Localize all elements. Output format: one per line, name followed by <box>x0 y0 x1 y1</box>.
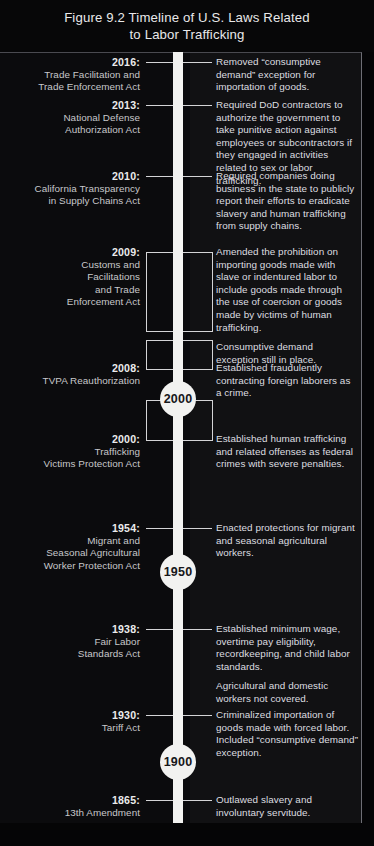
entry-year-2008: 2008: <box>0 362 140 375</box>
connector-left-1938 <box>146 629 174 630</box>
connector-left-2013 <box>146 105 174 106</box>
entry-year-2009: 2009: <box>0 246 140 259</box>
entry-name-2010: California Transparency in Supply Chains… <box>0 183 140 208</box>
entry-desc-2000-0: Established human trafficking and relate… <box>216 433 358 471</box>
entry-year-1865: 1865: <box>0 794 140 807</box>
entry-name-2008: TVPA Reauthorization <box>0 375 140 387</box>
entry-year-1938: 1938: <box>0 623 140 636</box>
entry-desc-2008-0: Established fraudulently contracting for… <box>216 362 358 400</box>
entry-desc-1930-0: Criminalized importation of goods made w… <box>216 709 358 759</box>
decade-marker-1900: 1900 <box>160 744 196 780</box>
entry-name-1930: Tariff Act <box>0 722 140 734</box>
entry-name-1938: Fair Labor Standards Act <box>0 636 140 661</box>
connector-right-2010 <box>182 176 212 177</box>
entry-name-2009: Customs and Facilitations and Trade Enfo… <box>0 259 140 309</box>
entry-name-2016: Trade Facilitation and Trade Enforcement… <box>0 69 140 94</box>
entry-year-2013: 2013: <box>0 99 140 112</box>
entry-year-2000: 2000: <box>0 433 140 446</box>
connector-right-2016 <box>182 62 212 63</box>
entry-desc-1938-0: Established minimum wage, overtime pay e… <box>216 623 358 673</box>
connector-left-2016 <box>146 62 174 63</box>
entry-year-2010: 2010: <box>0 170 140 183</box>
entry-year-1930: 1930: <box>0 709 140 722</box>
entry-year-2016: 2016: <box>0 56 140 69</box>
connector-left-1954 <box>146 528 174 529</box>
connector-right-bracket-2009 <box>182 252 213 332</box>
decade-marker-1950: 1950 <box>160 554 196 590</box>
connector-left-bracket-2008 <box>146 340 175 370</box>
entry-desc-1954-0: Enacted protections for migrant and seas… <box>216 522 358 560</box>
entry-year-1954: 1954: <box>0 522 140 535</box>
timeline-figure: Figure 9.2 Timeline of U.S. Laws Related… <box>0 0 374 846</box>
connector-left-1930 <box>146 715 174 716</box>
entry-desc-2010-0: Required companies doing business in the… <box>216 170 358 233</box>
entry-name-2000: Trafficking Victims Protection Act <box>0 446 140 471</box>
figure-title: Figure 9.2 Timeline of U.S. Laws Related… <box>22 9 352 43</box>
connector-left-1865 <box>146 800 174 801</box>
connector-right-1865 <box>182 800 212 801</box>
figure-title-band: Figure 9.2 Timeline of U.S. Laws Related… <box>0 0 374 52</box>
entry-desc-2016-0: Removed “consumptive demand” exception f… <box>216 56 358 94</box>
connector-right-1938 <box>182 629 212 630</box>
connector-right-1954 <box>182 528 212 529</box>
entry-desc-1865-0: Outlawed slavery and involuntary servitu… <box>216 794 358 819</box>
entry-desc-2009-0: Amended the prohibition on importing goo… <box>216 246 358 334</box>
timeline-spine <box>173 52 183 823</box>
entry-name-1954: Migrant and Seasonal Agricultural Worker… <box>0 535 140 572</box>
decade-marker-2000: 2000 <box>160 381 196 417</box>
entry-name-2013: National Defense Authorization Act <box>0 112 140 137</box>
entry-name-1865: 13th Amendment <box>0 807 140 819</box>
connector-left-bracket-2009 <box>146 252 175 332</box>
connector-right-1930 <box>182 715 212 716</box>
connector-left-2010 <box>146 176 174 177</box>
connector-right-bracket-2008 <box>182 340 213 370</box>
connector-right-2013 <box>182 105 212 106</box>
entry-desc-1938-1: Agricultural and domestic workers not co… <box>216 680 358 705</box>
